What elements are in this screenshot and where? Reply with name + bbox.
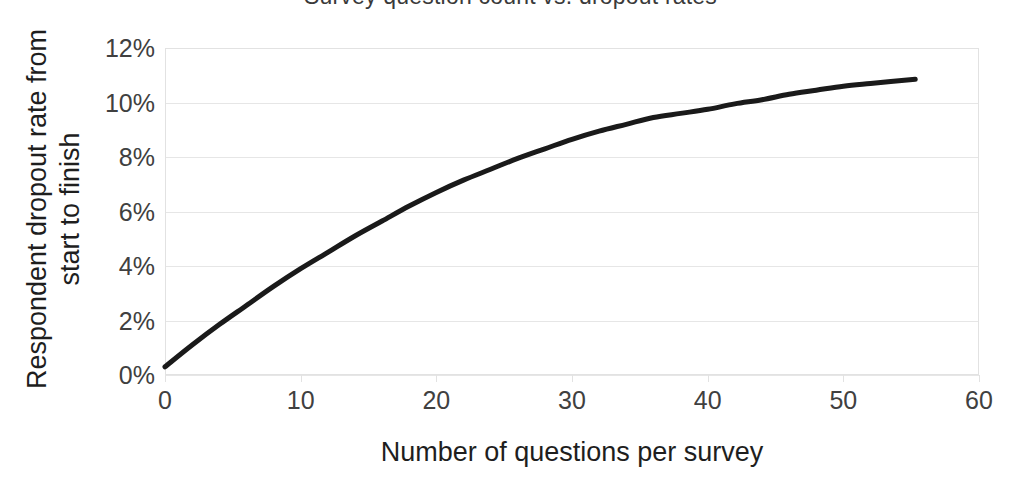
x-tick-label-2: 20	[396, 386, 476, 415]
y-axis-title-line-1: Respondent dropout rate from	[21, 14, 54, 404]
x-tick-mark-0	[165, 375, 166, 382]
y-axis-title-line-2: start to finish	[54, 14, 87, 404]
x-tick-mark-2	[436, 375, 437, 382]
x-tick-mark-3	[572, 375, 573, 382]
y-axis-tick-labels: 0%2%4%6%8%10%12%	[85, 48, 155, 375]
x-tick-mark-6	[979, 375, 980, 382]
x-tick-label-5: 50	[803, 386, 883, 415]
plot-area	[165, 48, 979, 375]
x-tick-mark-4	[708, 375, 709, 382]
y-tick-label-1: 2%	[85, 306, 155, 335]
x-axis-tick-marks	[165, 375, 979, 383]
x-axis-title: Number of questions per survey	[165, 437, 979, 468]
x-tick-mark-5	[843, 375, 844, 382]
series-dropout-rate	[165, 48, 979, 375]
chart-figure: Survey question count vs. dropout rates …	[0, 0, 1021, 486]
x-tick-label-1: 10	[261, 386, 341, 415]
x-tick-label-3: 30	[532, 386, 612, 415]
y-tick-label-5: 10%	[85, 88, 155, 117]
x-tick-label-4: 40	[668, 386, 748, 415]
x-axis-tick-labels: 0102030405060	[165, 386, 979, 418]
y-tick-label-3: 6%	[85, 197, 155, 226]
x-tick-label-6: 60	[939, 386, 1019, 415]
x-tick-mark-1	[301, 375, 302, 382]
y-tick-label-2: 4%	[85, 252, 155, 281]
chart-title: Survey question count vs. dropout rates	[0, 0, 1021, 10]
y-tick-label-4: 8%	[85, 143, 155, 172]
y-tick-label-6: 12%	[85, 34, 155, 63]
x-tick-label-0: 0	[125, 386, 205, 415]
y-axis-title: Respondent dropout rate from start to fi…	[21, 14, 87, 404]
